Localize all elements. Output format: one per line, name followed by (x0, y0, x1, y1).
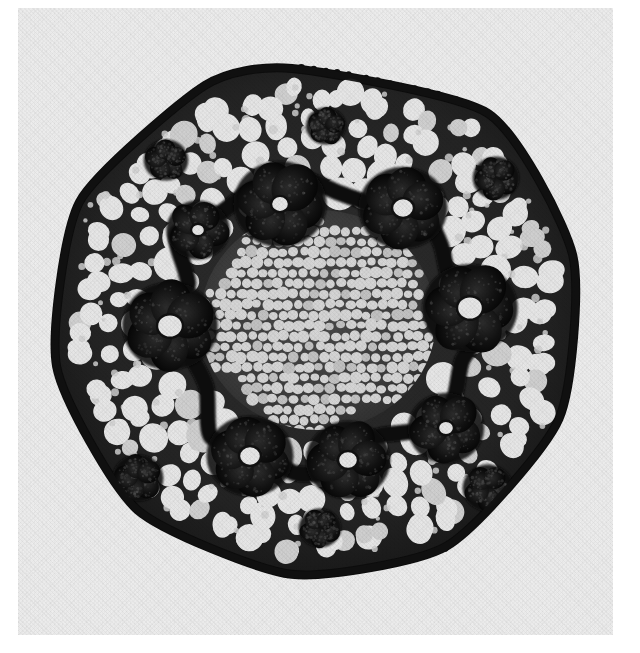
stem-cross-section (18, 8, 613, 635)
figure-root (0, 0, 640, 653)
micrograph-plate (18, 8, 613, 635)
